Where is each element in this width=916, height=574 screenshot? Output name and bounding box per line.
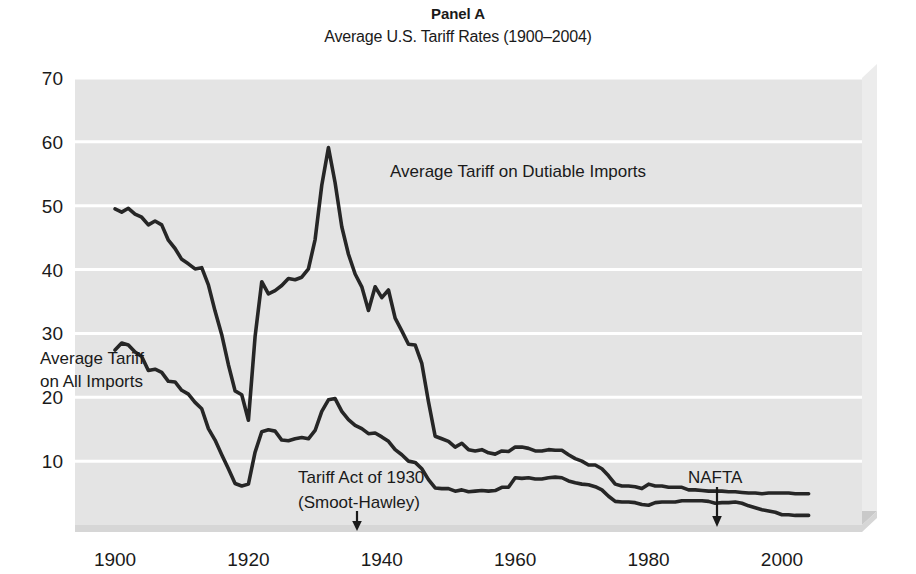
y-axis-tick-label: 60 xyxy=(42,132,63,153)
x-axis-tick-label: 1980 xyxy=(627,549,669,570)
series-label-all-imports-line1: Average Tariff xyxy=(40,349,144,368)
annotation-nafta-label: NAFTA xyxy=(688,468,743,487)
series-label-all-imports-line2: on All Imports xyxy=(40,372,143,391)
x-axis-tick-label: 1920 xyxy=(227,549,269,570)
figure-subtitle: Average U.S. Tariff Rates (1900–2004) xyxy=(0,26,916,48)
plot-area-background xyxy=(75,78,862,525)
x-axis-tick-label: 1940 xyxy=(361,549,403,570)
x-axis-tick-label: 1900 xyxy=(94,549,136,570)
page-title: Panel A xyxy=(0,4,916,24)
y-axis-tick-label: 70 xyxy=(42,68,63,89)
x-axis-tick-labels: 190019201940196019802000 xyxy=(94,549,803,570)
y-axis-tick-label: 10 xyxy=(42,451,63,472)
annotation-smoot-hawley-line2: (Smoot-Hawley) xyxy=(298,493,420,512)
y-axis-tick-label: 30 xyxy=(42,323,63,344)
x-axis-tick-label: 2000 xyxy=(761,549,803,570)
y-axis-tick-label: 50 xyxy=(42,196,63,217)
plot-bevel-right xyxy=(862,64,877,525)
y-axis-tick-labels: 10203040506070 xyxy=(42,68,63,472)
y-axis-tick-label: 40 xyxy=(42,260,63,281)
annotation-smoot-hawley-line1: Tariff Act of 1930 xyxy=(298,468,424,487)
figure-panel-a: Panel A Average U.S. Tariff Rates (1900–… xyxy=(0,0,916,574)
title-block: Panel A Average U.S. Tariff Rates (1900–… xyxy=(0,4,916,48)
tariff-line-chart: 10203040506070 190019201940196019802000 … xyxy=(0,0,916,574)
series-label-dutiable: Average Tariff on Dutiable Imports xyxy=(390,162,646,181)
x-axis-tick-label: 1960 xyxy=(494,549,536,570)
